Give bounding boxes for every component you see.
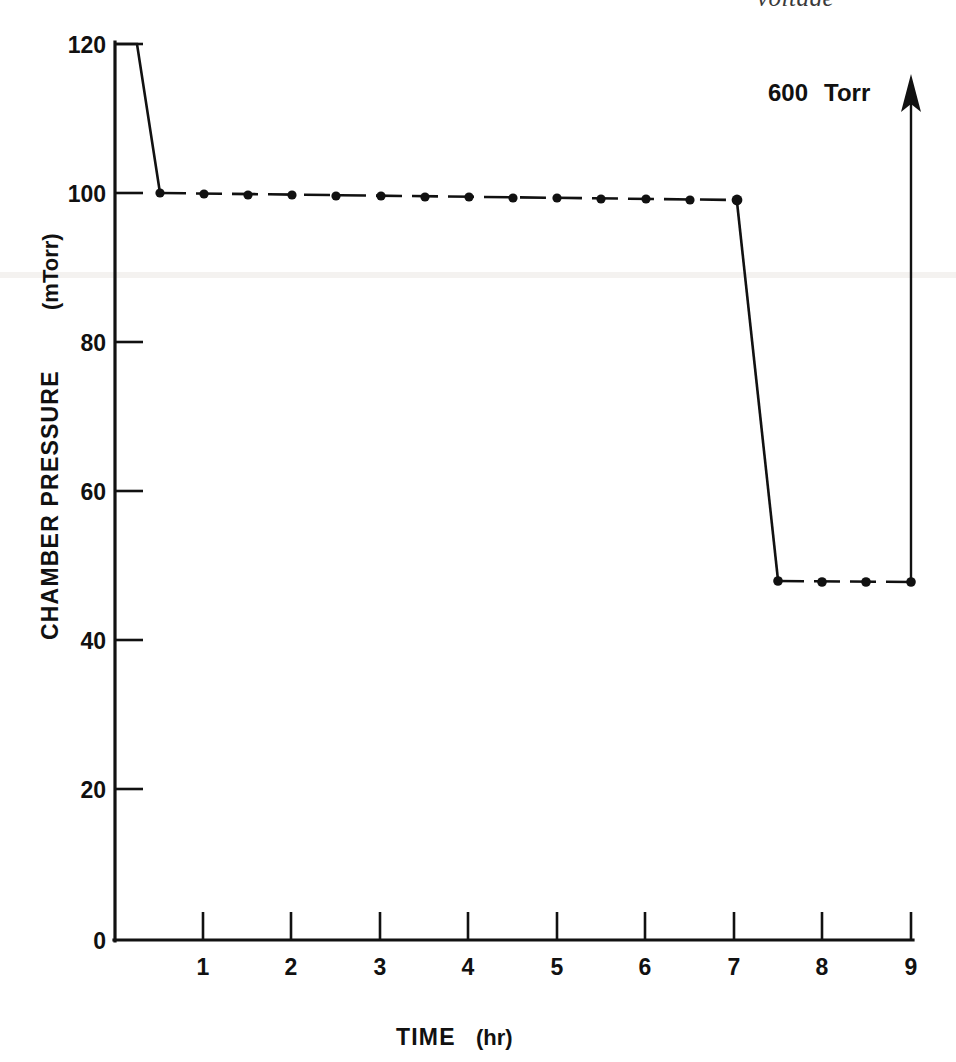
x-tick-label-3: 3 (374, 954, 387, 980)
data-point (199, 189, 208, 198)
x-axis-title-group: TIME (hr) (396, 1024, 513, 1050)
axis-group (114, 42, 913, 941)
x-tick-label-4: 4 (462, 954, 475, 980)
vent-annotation-group: 600 Torr (768, 74, 921, 582)
x-tick-label-7: 7 (728, 954, 741, 980)
data-segment-initial-drop (115, 44, 160, 193)
y-tick-label-group: 120 100 80 60 40 20 0 (68, 32, 106, 954)
y-tick-label-20: 20 (80, 777, 106, 803)
chamber-pressure-vs-time-chart: 120 100 80 60 40 20 0 1 2 3 4 5 6 (0, 0, 956, 1062)
y-tick-group (115, 44, 143, 789)
data-point (732, 195, 743, 206)
y-tick-label-0: 0 (93, 928, 106, 954)
x-tick-label-1: 1 (197, 954, 210, 980)
data-point (773, 576, 783, 586)
data-point (641, 194, 650, 203)
y-axis-title-group: CHAMBER PRESSURE (mTorr) (37, 233, 63, 640)
data-point (331, 191, 340, 200)
x-tick-label-group: 1 2 3 4 5 6 7 8 9 (197, 954, 918, 980)
data-point (420, 192, 429, 201)
data-point (508, 193, 517, 202)
data-point (376, 191, 385, 200)
data-point (464, 192, 473, 201)
x-tick-label-8: 8 (816, 954, 829, 980)
y-tick-label-40: 40 (80, 628, 106, 654)
data-point (596, 194, 605, 203)
y-tick-label-80: 80 (80, 330, 106, 356)
data-segment-vent-drop (737, 202, 778, 580)
data-point (243, 190, 252, 199)
data-segment-plateau-50 (778, 581, 911, 582)
data-point (552, 193, 561, 202)
x-tick-label-2: 2 (285, 954, 298, 980)
data-point (817, 577, 827, 587)
vent-annotation-unit: Torr (824, 79, 870, 106)
vent-annotation-value: 600 (768, 79, 808, 106)
series-chamber-pressure (115, 44, 916, 587)
data-point (861, 577, 871, 587)
x-tick-label-6: 6 (639, 954, 652, 980)
x-tick-label-9: 9 (905, 954, 918, 980)
data-point (685, 195, 694, 204)
y-tick-label-120: 120 (68, 32, 106, 58)
y-axis-title: CHAMBER PRESSURE (37, 370, 63, 640)
data-point (155, 188, 164, 197)
data-point (287, 190, 296, 199)
x-tick-label-5: 5 (551, 954, 564, 980)
y-axis-unit: (mTorr) (38, 233, 63, 310)
y-tick-label-60: 60 (80, 479, 106, 505)
x-axis-unit: (hr) (476, 1025, 513, 1050)
x-tick-group (203, 912, 911, 940)
y-tick-label-100: 100 (68, 181, 106, 207)
x-axis-title: TIME (396, 1024, 456, 1050)
figure-root: voltage 120 100 80 60 (0, 0, 956, 1062)
